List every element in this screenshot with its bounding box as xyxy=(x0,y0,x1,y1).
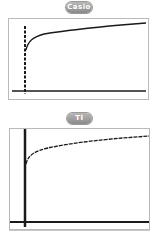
ti-panel-bottom-border xyxy=(9,230,150,231)
log-curve xyxy=(26,23,146,50)
log-curve xyxy=(26,136,149,164)
casio-graph-panel xyxy=(8,18,149,100)
casio-graph xyxy=(9,19,148,99)
casio-badge: Casio xyxy=(66,2,92,13)
ti-badge: TI xyxy=(67,113,92,124)
ti-graph xyxy=(10,129,149,229)
ti-graph-panel xyxy=(9,128,150,230)
